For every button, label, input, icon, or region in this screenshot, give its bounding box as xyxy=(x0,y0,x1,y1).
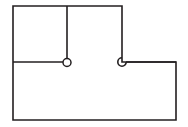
drawing-canvas xyxy=(0,0,188,127)
canvas-background xyxy=(0,0,188,127)
floor-plan-svg xyxy=(0,0,188,127)
